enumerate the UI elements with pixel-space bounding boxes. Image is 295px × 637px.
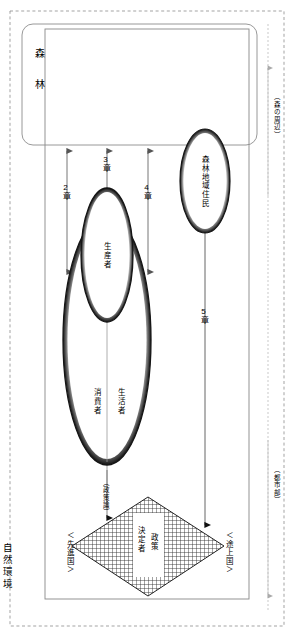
developing-countries-label: ＜途上国＞ — [225, 531, 233, 574]
chapter2-label: 2章 — [61, 183, 69, 201]
actor-label-forest-residents: 森林地域住民 — [201, 155, 209, 208]
chapter4-label: 4章 — [142, 183, 150, 201]
actor-label-policy-maker-line2: 決定者 — [137, 526, 145, 552]
actor-label-policy-maker-line1: 政策 — [150, 533, 158, 551]
forest-rounded-box — [22, 24, 257, 145]
diagram-svg — [0, 0, 295, 637]
actor-label-inhabitant: 生活者 — [117, 388, 125, 414]
policy-theory-label: （政策論） — [101, 479, 108, 516]
outer-boundary-label: 自然環境 — [2, 543, 12, 591]
chapter5-label: 5章 — [199, 307, 207, 325]
periphery-zone-label: （森の周辺） — [272, 93, 279, 138]
developed-countries-label: ＜先進国＞ — [66, 531, 74, 574]
forest-box-label: 森 林 — [33, 48, 43, 94]
actor-label-consumer: 消費者 — [93, 388, 101, 414]
urban-zone-label: （都市部） — [272, 466, 279, 504]
diagram-canvas: 自然環境 森 林 （森の周辺） （都市部） 森林地域住民 生産者 生活者 消費者… — [0, 0, 295, 637]
actor-label-producer: 生産者 — [103, 242, 111, 268]
chapter3-label: 3章 — [101, 155, 109, 173]
